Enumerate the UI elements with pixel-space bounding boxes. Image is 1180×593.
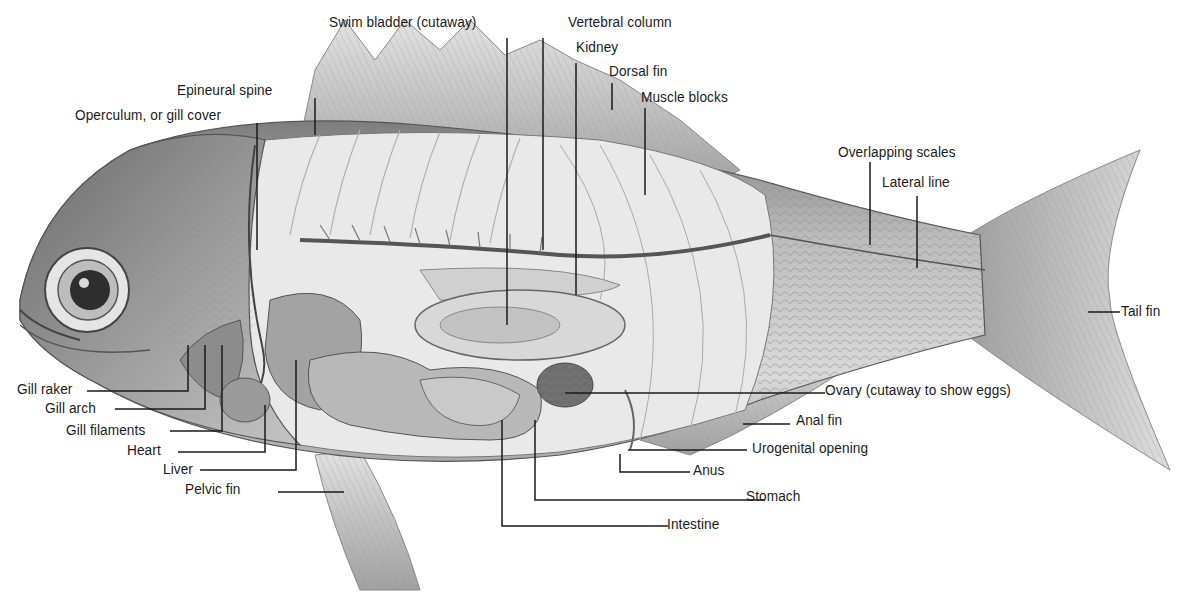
label-epineural-spine: Epineural spine [177, 81, 272, 99]
label-overlapping-scales: Overlapping scales [838, 143, 956, 161]
label-pelvic-fin: Pelvic fin [185, 480, 240, 498]
label-swim-bladder: Swim bladder (cutaway) [329, 13, 476, 31]
label-muscle-blocks: Muscle blocks [641, 88, 728, 106]
label-urogenital-opening: Urogenital opening [752, 439, 868, 457]
label-anal-fin: Anal fin [796, 411, 842, 429]
label-operculum: Operculum, or gill cover [75, 106, 221, 124]
label-dorsal-fin: Dorsal fin [609, 62, 667, 80]
label-stomach: Stomach [746, 487, 800, 505]
label-anus: Anus [693, 461, 724, 479]
label-tail-fin: Tail fin [1121, 302, 1160, 320]
label-intestine: Intestine [667, 515, 719, 533]
fish-anatomy-diagram: Swim bladder (cutaway) Vertebral column … [0, 0, 1180, 593]
label-gill-raker: Gill raker [17, 380, 72, 398]
label-gill-arch: Gill arch [45, 399, 96, 417]
label-heart: Heart [127, 441, 161, 459]
label-ovary: Ovary (cutaway to show eggs) [825, 381, 1011, 399]
label-liver: Liver [163, 460, 193, 478]
label-kidney: Kidney [576, 38, 618, 56]
label-gill-filaments: Gill filaments [66, 421, 145, 439]
label-vertebral-column: Vertebral column [568, 13, 672, 31]
label-lateral-line: Lateral line [882, 173, 950, 191]
